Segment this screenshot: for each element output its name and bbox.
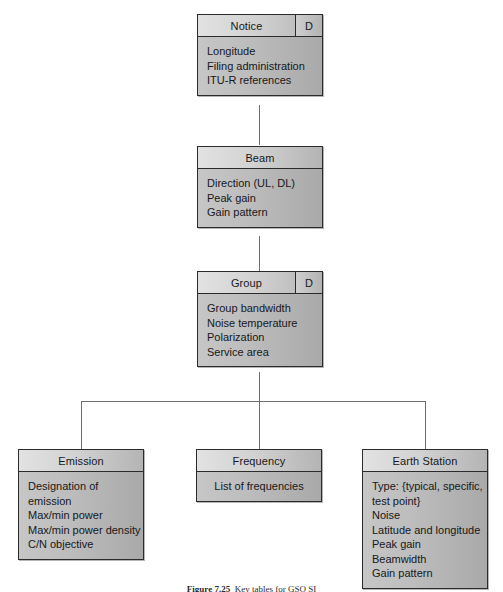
class-node-notice[interactable]: Notice D Longitude Filing administration… bbox=[197, 14, 323, 96]
class-attributes-group: Group bandwidth Noise temperature Polari… bbox=[207, 301, 322, 359]
class-title-emission: Emission bbox=[19, 450, 143, 471]
connector-group-to-beam bbox=[259, 236, 260, 271]
figure-canvas: Notice D Longitude Filing administration… bbox=[0, 0, 503, 592]
class-body-earth-station: Type: {typical, specific, test point} No… bbox=[363, 472, 487, 588]
class-header-emission: Emission bbox=[19, 450, 143, 472]
class-header-beam: Beam bbox=[198, 147, 322, 169]
class-header-earth-station: Earth Station bbox=[363, 450, 487, 472]
figure-caption-label: Figure 7.25 bbox=[187, 584, 230, 592]
class-title-notice: Notice bbox=[198, 15, 295, 36]
class-attributes-notice: Longitude Filing administration ITU-R re… bbox=[207, 44, 322, 88]
figure-caption: Figure 7.25 Key tables for GSO SI bbox=[0, 584, 503, 592]
connector-group-stem bbox=[259, 372, 260, 401]
class-attributes-emission: Designation of emission Max/min power Ma… bbox=[28, 479, 143, 552]
class-attributes-beam: Direction (UL, DL) Peak gain Gain patter… bbox=[207, 176, 322, 220]
connector-beam-to-notice bbox=[259, 105, 260, 145]
class-title-earth-station: Earth Station bbox=[363, 450, 487, 471]
class-node-beam[interactable]: Beam Direction (UL, DL) Peak gain Gain p… bbox=[197, 146, 323, 228]
class-node-earth-station[interactable]: Earth Station Type: {typical, specific, … bbox=[362, 449, 488, 589]
class-title-group: Group bbox=[198, 272, 295, 293]
class-header-notice: Notice D bbox=[198, 15, 322, 37]
connector-drop-earth-station bbox=[425, 401, 426, 449]
class-title-beam: Beam bbox=[198, 147, 322, 168]
class-header-frequency: Frequency bbox=[197, 450, 321, 472]
discriminator-cell-group: D bbox=[295, 272, 322, 293]
connector-fanout-bus bbox=[81, 401, 425, 402]
connector-drop-frequency bbox=[259, 401, 260, 449]
class-body-group: Group bandwidth Noise temperature Polari… bbox=[198, 294, 322, 366]
figure-caption-text: Key tables for GSO SI bbox=[235, 584, 317, 592]
class-node-group[interactable]: Group D Group bandwidth Noise temperatur… bbox=[197, 271, 323, 367]
class-body-frequency: List of frequencies bbox=[197, 472, 321, 501]
class-body-beam: Direction (UL, DL) Peak gain Gain patter… bbox=[198, 169, 322, 227]
class-node-emission[interactable]: Emission Designation of emission Max/min… bbox=[18, 449, 144, 560]
class-body-notice: Longitude Filing administration ITU-R re… bbox=[198, 37, 322, 95]
class-header-group: Group D bbox=[198, 272, 322, 294]
discriminator-cell-notice: D bbox=[295, 15, 322, 36]
class-attributes-earth-station: Type: {typical, specific, test point} No… bbox=[372, 479, 487, 581]
class-node-frequency[interactable]: Frequency List of frequencies bbox=[196, 449, 322, 502]
class-attributes-frequency: List of frequencies bbox=[197, 479, 321, 494]
connector-drop-emission bbox=[81, 401, 82, 449]
class-title-frequency: Frequency bbox=[197, 450, 321, 471]
class-body-emission: Designation of emission Max/min power Ma… bbox=[19, 472, 143, 559]
